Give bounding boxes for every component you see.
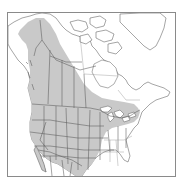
range-map: Range map of North America <box>0 0 187 184</box>
north-america-map <box>0 0 187 184</box>
